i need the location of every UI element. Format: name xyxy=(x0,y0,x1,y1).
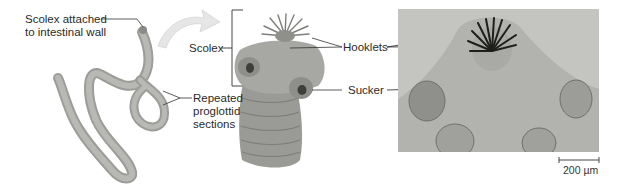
label-proglottid-line3: sections xyxy=(193,118,235,131)
scolex-illustration xyxy=(235,14,325,168)
label-scolex: Scolex xyxy=(189,42,224,55)
label-proglottid-line2: proglottid xyxy=(193,105,240,118)
label-hooklets: Hooklets xyxy=(343,41,388,54)
label-scolex-attached-line2: to intestinal wall xyxy=(25,26,106,39)
scale-bar-label: 200 µm xyxy=(563,164,598,176)
tapeworm-body-illustration xyxy=(58,26,165,179)
label-proglottid-line1: Repeated xyxy=(193,92,243,105)
micrograph-image xyxy=(398,9,599,152)
label-scolex-attached-line1: Scolex attached xyxy=(25,13,107,26)
micrograph-photo xyxy=(398,9,599,152)
scolex-tip xyxy=(139,26,147,34)
label-sucker: Sucker xyxy=(348,84,384,97)
